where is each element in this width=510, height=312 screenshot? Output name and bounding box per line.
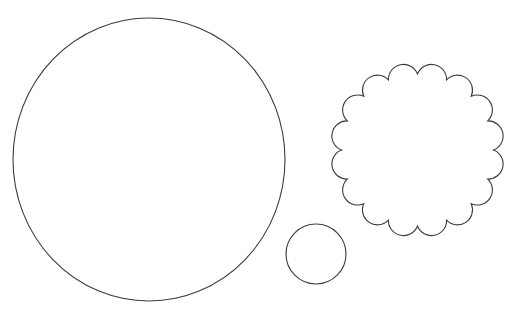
canvas (0, 0, 510, 312)
small-circle-shape (286, 224, 346, 284)
scalloped-circle-shape (332, 64, 503, 235)
large-circle-shape (13, 18, 285, 301)
